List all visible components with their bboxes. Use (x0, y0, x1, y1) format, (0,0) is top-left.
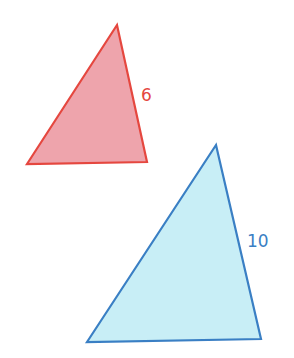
similar-triangles-diagram: 6 10 (0, 0, 294, 358)
small-triangle (27, 25, 147, 164)
large-triangle (87, 145, 261, 342)
large-triangle-side-label: 10 (247, 231, 269, 251)
small-triangle-side-label: 6 (141, 85, 152, 105)
